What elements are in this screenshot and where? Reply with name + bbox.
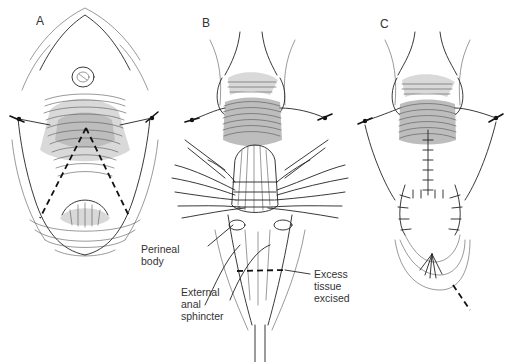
panel-label-b: B: [202, 16, 210, 30]
annotation-perineal-body: Perineal body: [141, 243, 180, 267]
panel-a-drawing: [10, 8, 158, 256]
surgical-illustration: A B C Perineal body External anal sphinc…: [0, 0, 513, 362]
panel-label-a: A: [36, 14, 44, 28]
annotation-excess-tissue-excised: Excess tissue excised: [314, 268, 350, 304]
panel-c-drawing: [358, 32, 503, 310]
annotation-external-anal-sphincter: External anal sphincter: [181, 286, 224, 322]
illustration-artwork: [0, 0, 513, 362]
panel-label-c: C: [380, 17, 389, 31]
